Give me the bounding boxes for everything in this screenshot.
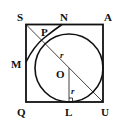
label-S: S [17, 11, 23, 23]
label-P: P [41, 26, 48, 38]
diagonal-SU [26, 25, 103, 103]
label-N: N [60, 11, 68, 23]
label-A: A [104, 11, 112, 23]
geometry-diagram: S N A P M O r r Q L U [0, 0, 116, 121]
label-Q: Q [17, 106, 26, 118]
label-r-diagonal: r [60, 50, 64, 60]
label-M: M [11, 58, 22, 70]
label-O: O [56, 68, 65, 80]
label-L: L [65, 106, 72, 118]
label-U: U [101, 106, 109, 118]
label-r-vertical: r [71, 86, 75, 96]
